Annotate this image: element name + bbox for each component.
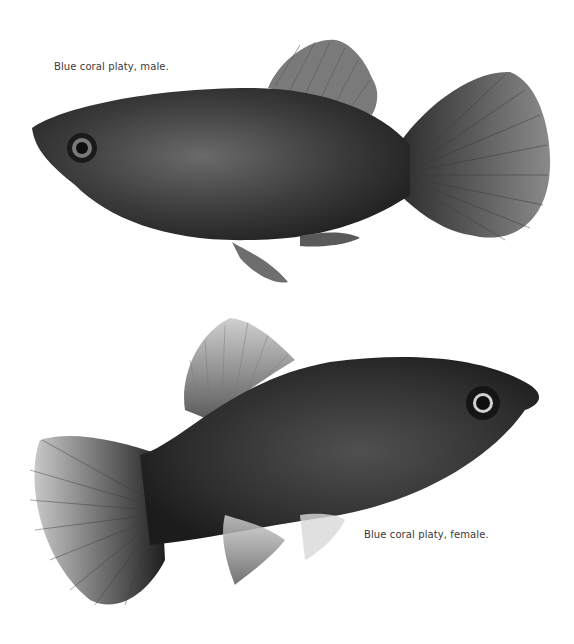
fish-male-illustration — [32, 40, 550, 283]
caption-female: Blue coral platy, female. — [364, 529, 489, 540]
fish-female-illustration — [30, 318, 539, 605]
caption-male: Blue coral platy, male. — [54, 61, 169, 72]
page-illustrations — [0, 0, 574, 644]
